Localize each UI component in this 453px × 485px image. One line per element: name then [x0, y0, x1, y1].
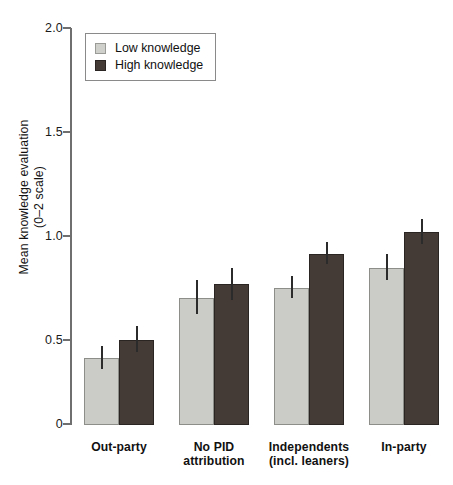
y-tick-label-0.5: 0.5 [29, 334, 63, 346]
y-tick-label-2.0: 2.0 [29, 22, 63, 34]
errorbar-out-party-low-knowledge [101, 346, 103, 370]
bar-no-pid-high-knowledge [214, 284, 249, 425]
x-axis-label-in-party: In-party [365, 440, 443, 454]
bar-group-out-party [80, 28, 158, 425]
y-tick-1.5: 1.5 [0, 126, 63, 138]
legend-item-low-knowledge: Low knowledge [95, 40, 203, 57]
x-axis-label-out-party: Out-party [80, 440, 158, 454]
bar-in-party-low-knowledge [369, 268, 404, 425]
y-tick-label-0: 0 [29, 418, 63, 430]
errorbar-independents-low-knowledge [291, 276, 293, 298]
x-label-independents-line-2: (incl. leaners) [262, 454, 356, 468]
errorbar-independents-high-knowledge [326, 242, 328, 264]
legend-item-high-knowledge: High knowledge [95, 57, 203, 74]
bar-chart: Mean knowledge evaluation (0–2 scale) 2.… [0, 0, 453, 485]
x-label-independents-line-1: Independents [262, 440, 356, 454]
x-label-no-pid-line-2: attribution [175, 454, 253, 468]
y-tick-label-1.0: 1.0 [29, 230, 63, 242]
y-tick-mark-1.0 [63, 235, 71, 237]
y-axis-title: Mean knowledge evaluation (0–2 scale) [17, 87, 47, 307]
y-tick-mark-1.5 [63, 131, 71, 133]
bar-group-in-party [365, 28, 443, 425]
y-tick-0.5: 0.5 [0, 334, 63, 346]
errorbar-in-party-high-knowledge [421, 219, 423, 245]
y-tick-0: 0 [0, 418, 63, 430]
y-axis-title-line-1: Mean knowledge evaluation [17, 87, 32, 307]
errorbar-in-party-low-knowledge [386, 254, 388, 280]
bar-independents-high-knowledge [309, 254, 344, 425]
light-square-icon [95, 43, 106, 54]
x-label-no-pid-line-1: No PID [175, 440, 253, 454]
errorbar-no-pid-high-knowledge [231, 268, 233, 300]
legend-label-high-knowledge: High knowledge [115, 59, 203, 72]
y-tick-mark-2.0 [63, 27, 71, 29]
x-label-out-party-line-1: Out-party [80, 440, 158, 454]
y-axis-title-line-2: (0–2 scale) [32, 87, 47, 307]
x-axis-label-no-pid-attribution: No PID attribution [175, 440, 253, 468]
x-label-in-party-line-1: In-party [365, 440, 443, 454]
y-tick-mark-0 [63, 423, 71, 425]
bar-out-party-high-knowledge [119, 340, 154, 425]
dark-square-icon [95, 60, 106, 71]
bar-independents-low-knowledge [274, 288, 309, 425]
errorbar-no-pid-low-knowledge [196, 280, 198, 314]
y-tick-2.0: 2.0 [0, 22, 63, 34]
bar-group-independents [270, 28, 348, 425]
bar-group-no-pid-attribution [175, 28, 253, 425]
legend-label-low-knowledge: Low knowledge [115, 42, 200, 55]
errorbar-out-party-high-knowledge [136, 326, 138, 352]
y-tick-mark-0.5 [63, 339, 71, 341]
y-tick-1.0: 1.0 [0, 230, 63, 242]
x-axis-label-independents: Independents (incl. leaners) [262, 440, 356, 468]
bar-no-pid-low-knowledge [179, 298, 214, 425]
bar-in-party-high-knowledge [404, 232, 439, 425]
chart-legend: Low knowledge High knowledge [85, 33, 216, 81]
plot-area [72, 28, 451, 425]
y-tick-label-1.5: 1.5 [29, 126, 63, 138]
